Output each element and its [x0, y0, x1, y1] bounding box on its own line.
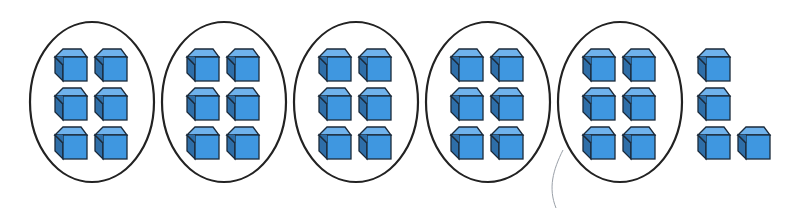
cube-icon	[491, 127, 523, 159]
cube-group-2	[162, 22, 286, 182]
cube-icon	[451, 127, 483, 159]
cube-icon	[623, 88, 655, 120]
group-oval	[426, 22, 550, 182]
pen-mark	[552, 150, 563, 208]
cube-icon	[359, 88, 391, 120]
leftover-cubes	[698, 49, 770, 159]
cube-icon	[55, 88, 87, 120]
cube-icon	[491, 49, 523, 81]
cube-icon	[359, 127, 391, 159]
group-oval	[294, 22, 418, 182]
cube-icon	[583, 88, 615, 120]
cube-icon	[187, 49, 219, 81]
cube-icon	[187, 88, 219, 120]
cube-group-1	[30, 22, 154, 182]
cube-icon	[491, 88, 523, 120]
cube-icon	[319, 127, 351, 159]
cube-icon	[187, 127, 219, 159]
cube-group-5	[558, 22, 682, 182]
cube-icon	[95, 49, 127, 81]
cube-icon	[55, 127, 87, 159]
cube-icon	[227, 49, 259, 81]
cube-icon	[95, 127, 127, 159]
cube-icon	[451, 88, 483, 120]
cube-icon	[623, 49, 655, 81]
grouping-diagram	[0, 0, 786, 208]
cube-icon	[319, 88, 351, 120]
cube-icon	[698, 88, 730, 120]
cube-icon	[583, 49, 615, 81]
cube-icon	[738, 127, 770, 159]
cube-group-3	[294, 22, 418, 182]
group-oval	[162, 22, 286, 182]
cube-icon	[359, 49, 391, 81]
cube-group-4	[426, 22, 550, 182]
group-oval	[30, 22, 154, 182]
cube-icon	[451, 49, 483, 81]
cube-icon	[583, 127, 615, 159]
cube-icon	[319, 49, 351, 81]
cube-icon	[95, 88, 127, 120]
group-oval	[558, 22, 682, 182]
cube-icon	[227, 88, 259, 120]
cube-icon	[698, 49, 730, 81]
cube-icon	[698, 127, 730, 159]
cube-icon	[227, 127, 259, 159]
cube-icon	[55, 49, 87, 81]
cube-icon	[623, 127, 655, 159]
